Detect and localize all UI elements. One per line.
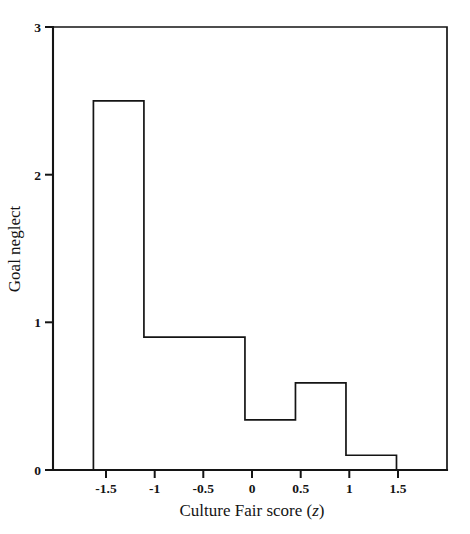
histogram-figure: 0 1 2 3 -1.5 -1 -0.5 0 0.5 1 1.5 <box>0 0 470 534</box>
histogram-bars <box>93 101 396 470</box>
x-tick-label-0: 0 <box>249 481 256 496</box>
y-axis-tick-labels: 0 1 2 3 <box>34 20 41 478</box>
x-tick-label-1: 1 <box>346 481 353 496</box>
x-tick-label--1.5: -1.5 <box>95 481 117 496</box>
x-axis-title: Culture Fair score (z) <box>180 501 325 520</box>
chart-canvas: 0 1 2 3 -1.5 -1 -0.5 0 0.5 1 1.5 <box>0 0 470 534</box>
y-tick-label-1: 1 <box>34 315 41 330</box>
x-tick-label--1: -1 <box>149 481 160 496</box>
x-tick-label-0.5: 0.5 <box>292 481 309 496</box>
x-axis-ticks <box>106 470 398 478</box>
x-tick-label-1.5: 1.5 <box>390 481 407 496</box>
x-axis-title-tail: ) <box>319 501 325 520</box>
y-axis-ticks <box>45 27 53 470</box>
y-tick-label-3: 3 <box>34 20 41 35</box>
x-axis-title-main: Culture Fair score ( <box>180 501 313 520</box>
y-tick-label-2: 2 <box>34 168 41 183</box>
y-axis-title: Goal neglect <box>5 206 24 293</box>
x-tick-label--0.5: -0.5 <box>193 481 215 496</box>
y-tick-label-0: 0 <box>34 463 41 478</box>
x-axis-tick-labels: -1.5 -1 -0.5 0 0.5 1 1.5 <box>95 481 406 496</box>
plot-frame <box>53 27 447 470</box>
